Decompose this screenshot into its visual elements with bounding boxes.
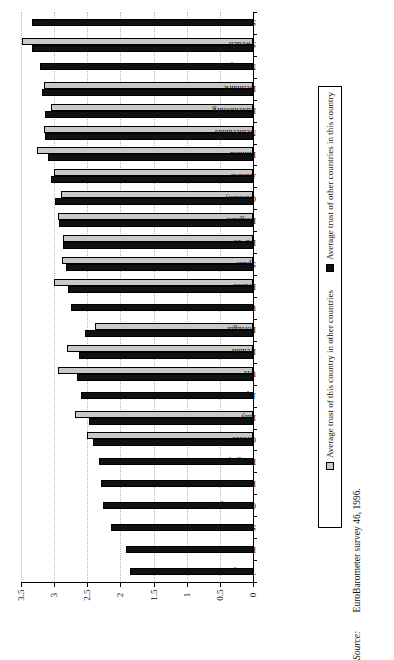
category-tick <box>253 12 257 13</box>
legend-swatch-gray-icon <box>326 462 334 470</box>
category-label: UK <box>164 369 256 378</box>
category-tick <box>253 429 257 430</box>
category-tick <box>253 122 257 123</box>
category-tick <box>253 319 257 320</box>
category-tick <box>253 297 257 298</box>
value-axis <box>21 582 253 583</box>
category-tick <box>253 100 257 101</box>
category-label: Netherlands <box>164 128 256 137</box>
category-tick <box>253 209 257 210</box>
category-label: Poland <box>164 479 256 488</box>
category-tick <box>253 341 257 342</box>
legend-label-own: Average trust of other countries in this… <box>325 92 335 260</box>
category-tick <box>253 582 257 583</box>
category-label: France <box>164 282 256 291</box>
category-label: Czech Republic <box>164 501 256 510</box>
category-label: Ireland <box>164 347 256 356</box>
category-label: US <box>164 303 256 312</box>
legend-swatch-black-icon <box>326 264 334 272</box>
category-label: EU-15 <box>164 238 256 247</box>
source-note: Source: EuroBarometer survey 46, 1996. <box>352 430 368 660</box>
category-tick <box>253 56 257 57</box>
category-tick <box>253 407 257 408</box>
category-tick <box>253 538 257 539</box>
legend-item-own: Average trust of other countries in this… <box>325 92 335 272</box>
category-tick <box>253 165 257 166</box>
source-text: EuroBarometer survey 46, 1996. <box>352 488 362 612</box>
category-label: Finland <box>164 150 256 159</box>
category-label: Switzerland <box>164 18 256 27</box>
source-label: Source: <box>352 631 362 660</box>
category-label: Austria <box>164 172 256 181</box>
category-label: Germany <box>164 194 256 203</box>
category-tick <box>253 385 257 386</box>
category-tick <box>253 187 257 188</box>
category-label: Denmark <box>164 84 256 93</box>
legend-label-other: Average trust of this country in other c… <box>325 290 335 458</box>
category-label: Slovakia <box>164 523 256 532</box>
category-tick <box>253 253 257 254</box>
category-tick <box>253 144 257 145</box>
category-label: Greece <box>164 435 256 444</box>
category-tick <box>253 472 257 473</box>
category-label: Russia <box>164 545 256 554</box>
category-label: Turkey <box>164 567 256 576</box>
category-label: Japan <box>164 391 256 400</box>
category-label: Spain <box>164 260 256 269</box>
category-tick <box>253 560 257 561</box>
category-label: Luxembourg <box>164 106 256 115</box>
category-tick <box>253 275 257 276</box>
category-tick <box>253 450 257 451</box>
category-tick <box>253 78 257 79</box>
category-tick <box>253 231 257 232</box>
category-label: Sweden <box>164 40 256 49</box>
category-label: Italy <box>164 413 256 422</box>
category-label: Belgium <box>164 216 256 225</box>
category-tick <box>253 34 257 35</box>
category-label: Hungary <box>164 457 256 466</box>
category-tick <box>253 494 257 495</box>
chart-legend: Average trust of other countries in this… <box>318 86 342 528</box>
category-tick <box>253 516 257 517</box>
category-label: Norway <box>164 62 256 71</box>
category-label: Portugal <box>164 325 256 334</box>
chart-plot-area: 3.532.521.510.50SwitzerlandSwedenNorwayD… <box>0 0 270 600</box>
legend-item-other: Average trust of this country in other c… <box>325 290 335 470</box>
category-tick <box>253 363 257 364</box>
